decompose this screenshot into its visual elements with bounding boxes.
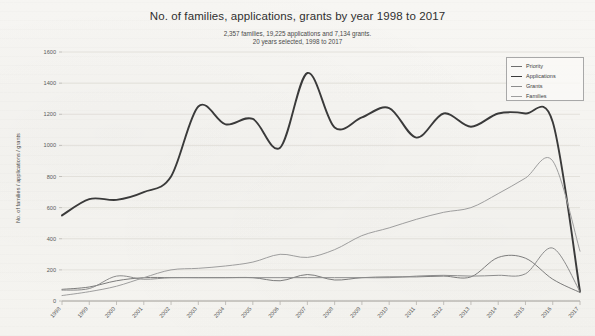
x-tick-label: 1998 [49, 306, 62, 319]
y-tick-label: 400 [47, 236, 56, 242]
x-tick-label: 2002 [158, 306, 171, 319]
legend-swatch-icon [511, 96, 522, 97]
legend-swatch-icon [511, 76, 522, 77]
legend-item-label: Grants [526, 81, 543, 91]
x-tick-label: 2008 [322, 306, 335, 319]
x-tick-label: 2009 [349, 306, 362, 319]
x-tick-label: 2004 [213, 306, 226, 319]
x-tick-label: 2016 [540, 306, 553, 319]
chart-container: No. of families, applications, grants by… [0, 0, 595, 336]
legend-item-priority[interactable]: Priority [511, 61, 579, 71]
legend-item-grants[interactable]: Grants [511, 81, 579, 91]
x-tick-label: 2014 [485, 306, 498, 319]
y-tick-label: 200 [47, 267, 56, 273]
x-tick-label: 2007 [294, 306, 307, 319]
x-tick-label: 2000 [103, 306, 116, 319]
legend-swatch-icon [511, 86, 522, 87]
legend-item-families[interactable]: Families [511, 91, 579, 101]
y-tick-label: 800 [47, 174, 56, 180]
chart-legend: PriorityApplicationsGrantsFamilies [506, 57, 584, 101]
y-tick-label: 1200 [44, 111, 56, 117]
legend-item-label: Priority [526, 61, 543, 71]
x-tick-label: 2010 [376, 306, 389, 319]
x-tick-label: 2003 [185, 306, 198, 319]
x-tick-label: 2013 [458, 306, 471, 319]
y-tick-label: 600 [47, 205, 56, 211]
x-tick-label: 2015 [512, 306, 525, 319]
y-tick-label: 1000 [44, 142, 56, 148]
legend-item-label: Applications [526, 71, 556, 81]
legend-swatch-icon [511, 66, 522, 67]
series-line-applications [62, 73, 580, 292]
gridlines [62, 52, 580, 301]
x-tick-label: 2011 [404, 306, 417, 319]
data-series-lines [62, 73, 580, 296]
series-line-families [62, 158, 580, 296]
x-tick-label: 2017 [567, 306, 580, 319]
x-tick-label: 2012 [431, 306, 444, 319]
y-tick-label: 1600 [44, 49, 56, 55]
legend-item-applications[interactable]: Applications [511, 71, 579, 81]
y-axis-ticks: 02004006008001000120014001600 [44, 49, 62, 304]
legend-item-label: Families [526, 91, 546, 101]
y-tick-label: 0 [53, 298, 56, 304]
x-tick-label: 2001 [131, 306, 144, 319]
x-tick-label: 1999 [76, 306, 89, 319]
x-tick-label: 2005 [240, 306, 253, 319]
x-tick-label: 2006 [267, 306, 280, 319]
series-line-priority [62, 255, 580, 292]
x-axis-ticks: 1998199920002001200220032004200520062007… [49, 301, 580, 319]
y-tick-label: 1400 [44, 80, 56, 86]
plot-area: 02004006008001000120014001600 1998199920… [0, 0, 595, 336]
